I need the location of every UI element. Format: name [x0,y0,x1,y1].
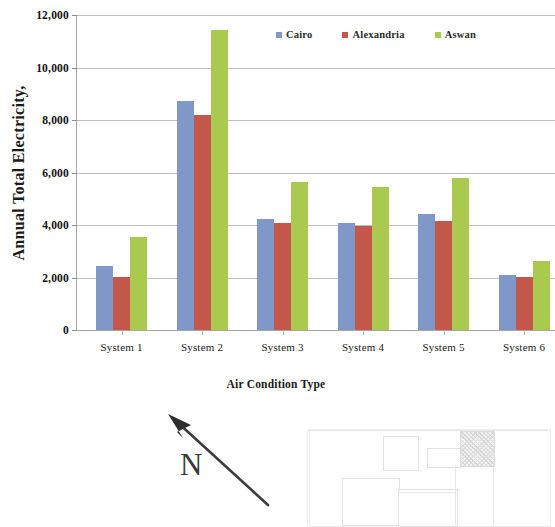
legend-label-cairo: Cairo [286,29,312,40]
x-tick-label-1: System 1 [100,341,142,353]
y-tick-label-10000: 10,000 [36,62,69,74]
y-tick-mark-4000 [72,225,77,226]
north-arrow-icon [150,405,290,515]
y-tick-label-6000: 6,000 [42,167,69,179]
x-axis-title: Air Condition Type [76,378,476,390]
legend-swatch-icon-aswan [435,32,441,38]
x-tick-mark-2 [202,330,203,335]
bar-alexandria-1[interactable] [113,277,130,330]
bar-cairo-1[interactable] [96,266,113,330]
legend-swatch-icon-alexandria [342,32,348,38]
plan-edge-left [309,431,310,525]
bar-group-4: System 4 [338,15,389,330]
bar-alexandria-6[interactable] [516,277,533,330]
x-tick-mark-6 [524,330,525,335]
plan-building-d [398,489,458,527]
legend-label-aswan: Aswan [445,29,476,40]
bar-chart-figure: Annual Total Electricity, 02,0004,0006,0… [0,0,554,400]
bar-aswan-1[interactable] [130,237,147,330]
x-tick-label-2: System 2 [181,341,223,353]
legend-swatch-icon-cairo [276,32,282,38]
north-arrow: N [150,405,290,515]
y-tick-mark-8000 [72,120,77,121]
y-tick-label-4000: 4,000 [42,219,69,231]
bar-group-6: System 6 [499,15,550,330]
y-tick-mark-10000 [72,68,77,69]
legend-item-cairo[interactable]: Cairo [276,29,312,40]
bar-cairo-5[interactable] [418,214,435,330]
x-tick-label-3: System 3 [261,341,303,353]
bar-aswan-4[interactable] [372,187,389,330]
x-tick-label-5: System 5 [422,341,464,353]
x-tick-label-4: System 4 [342,341,384,353]
plan-edge-top [308,430,548,431]
x-tick-mark-3 [283,330,284,335]
x-tick-mark-5 [444,330,445,335]
plot-area: 02,0004,0006,0008,00010,00012,000 System… [76,15,555,330]
bar-alexandria-2[interactable] [194,115,211,330]
gridline-12000 [77,15,555,16]
gridline-10000 [77,68,555,69]
north-label: N [180,447,202,483]
plan-divider-horizontal [398,492,456,493]
gridline-6000 [77,173,555,174]
site-plan-drawing [305,426,554,527]
y-tick-mark-2000 [72,278,77,279]
bar-alexandria-5[interactable] [435,221,452,330]
bar-group-2: System 2 [177,15,228,330]
y-tick-mark-0 [72,330,77,331]
bar-alexandria-3[interactable] [274,223,291,330]
y-tick-mark-12000 [72,15,77,16]
plan-building-c [342,478,400,526]
legend-item-aswan[interactable]: Aswan [435,29,476,40]
y-tick-label-12000: 12,000 [36,9,69,21]
bar-cairo-3[interactable] [257,219,274,330]
bar-group-1: System 1 [96,15,147,330]
legend-item-alexandria[interactable]: Alexandria [342,29,404,40]
bar-aswan-6[interactable] [533,261,550,330]
x-tick-label-6: System 6 [503,341,545,353]
y-tick-label-2000: 2,000 [42,272,69,284]
bar-aswan-5[interactable] [452,178,469,330]
bar-cairo-2[interactable] [177,101,194,330]
y-tick-label-8000: 8,000 [42,114,69,126]
plan-edge-right [493,464,494,525]
bar-aswan-2[interactable] [211,30,228,330]
bar-cairo-6[interactable] [499,275,516,330]
bar-group-3: System 3 [257,15,308,330]
x-tick-mark-4 [363,330,364,335]
gridline-0 [77,330,555,331]
bar-group-5: System 5 [418,15,469,330]
y-tick-mark-6000 [72,173,77,174]
bar-alexandria-4[interactable] [355,226,372,330]
bar-aswan-3[interactable] [291,182,308,330]
gridline-2000 [77,278,555,279]
gridline-4000 [77,225,555,226]
plan-building-a [383,436,419,471]
bar-cairo-4[interactable] [338,223,355,330]
gridline-8000 [77,120,555,121]
y-tick-label-0: 0 [63,324,69,336]
legend-label-alexandria: Alexandria [352,29,404,40]
plan-building-b [427,448,461,468]
plan-divider-vertical [455,466,456,525]
y-axis-title-text: Annual Total Electricity, [10,85,28,260]
x-tick-mark-1 [122,330,123,335]
y-axis-title: Annual Total Electricity, [6,48,32,298]
plan-hatched-block [460,431,495,467]
chart-legend: CairoAlexandriaAswan [276,29,476,40]
